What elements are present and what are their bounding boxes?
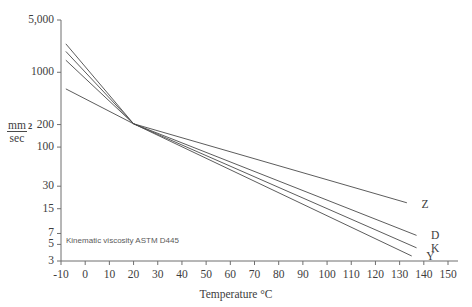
y-tick-label: 5 [48, 238, 54, 250]
y-tick-label: 200 [37, 119, 54, 131]
series-label-Z: Z [421, 198, 428, 210]
series-group [66, 44, 417, 256]
plot-caption: Kinematic viscosity ASTM D445 [66, 236, 179, 245]
y-axis-unit-fraction: mm sec [7, 119, 27, 144]
kinematic-viscosity-chart: 5,00010002001003015753 -1001020304050607… [0, 0, 472, 307]
y-tick-label: 30 [43, 180, 55, 192]
y-tick-label: 100 [37, 141, 54, 153]
x-axis-title: Temperature °C [0, 288, 472, 300]
x-tick-label: 150 [428, 269, 468, 281]
y-axis-title: mm sec 2 [7, 119, 32, 144]
y-tick-label: 3 [48, 255, 54, 267]
series-label-Y: Y [426, 250, 434, 262]
series-line-Y [66, 44, 412, 256]
y-tick-label: 15 [43, 203, 55, 215]
series-line-K [66, 51, 417, 247]
series-label-D: D [431, 229, 439, 241]
y-axis-unit-denominator: sec [7, 132, 27, 144]
y-axis-unit-numerator: mm [7, 119, 27, 132]
y-tick-label: 5,000 [28, 14, 54, 26]
y-axis-unit-exponent: 2 [28, 121, 32, 131]
series-line-D [66, 60, 417, 235]
chart-canvas [0, 0, 472, 307]
y-tick-label: 1000 [31, 66, 54, 78]
